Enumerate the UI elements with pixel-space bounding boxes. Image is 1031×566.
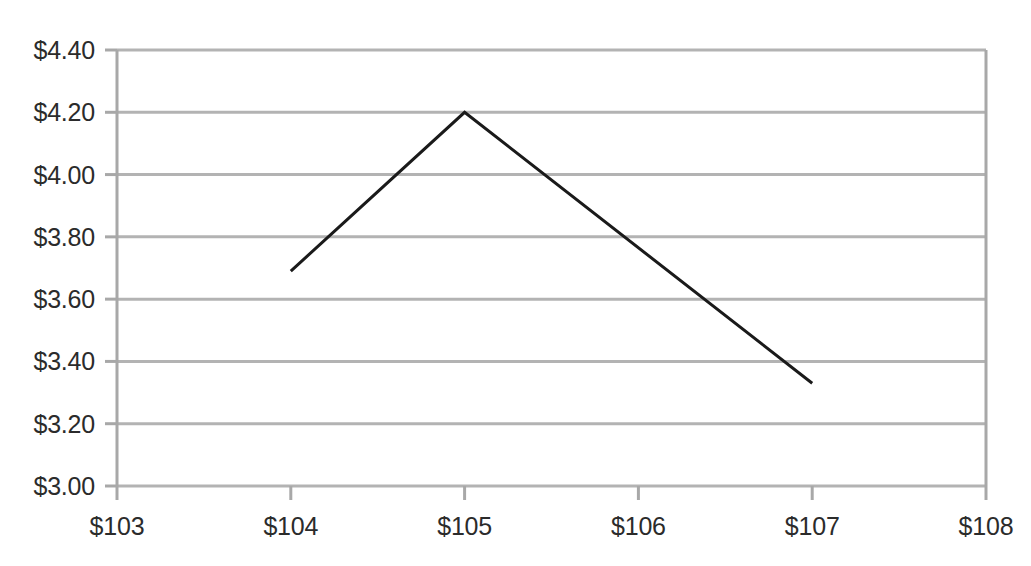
x-axis-tick-label: $104 bbox=[263, 514, 318, 539]
x-axis-tick-label: $108 bbox=[959, 514, 1014, 539]
data-line-payoff bbox=[291, 112, 812, 383]
x-axis-tick-label: $107 bbox=[785, 514, 840, 539]
line-chart: $4.40$4.20$4.00$3.80$3.60$3.40$3.20$3.00… bbox=[0, 0, 1031, 566]
y-axis-tick-label: $3.80 bbox=[33, 224, 95, 249]
y-axis-tick-label: $4.20 bbox=[33, 100, 95, 125]
y-tick-marks-group bbox=[105, 50, 117, 486]
y-axis-tick-label: $3.00 bbox=[33, 474, 95, 499]
x-axis-tick-label: $105 bbox=[437, 514, 492, 539]
x-axis-tick-label: $103 bbox=[90, 514, 145, 539]
y-axis-tick-label: $3.40 bbox=[33, 349, 95, 374]
y-axis-tick-label: $3.60 bbox=[33, 287, 95, 312]
y-axis-tick-label: $3.20 bbox=[33, 411, 95, 436]
x-tick-marks-group bbox=[117, 486, 986, 500]
x-axis-tick-label: $106 bbox=[611, 514, 666, 539]
chart-plot-area bbox=[0, 0, 1031, 566]
y-axis-tick-label: $4.40 bbox=[33, 38, 95, 63]
gridlines-group bbox=[117, 50, 986, 486]
axis-group bbox=[117, 50, 986, 486]
data-series-group bbox=[291, 112, 812, 383]
y-axis-tick-label: $4.00 bbox=[33, 162, 95, 187]
